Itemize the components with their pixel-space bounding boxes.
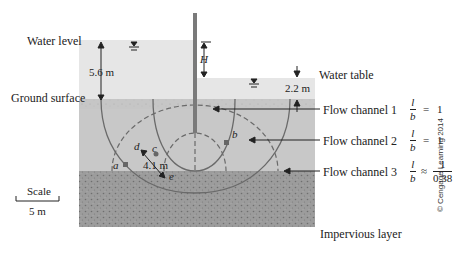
point-b-label: b	[232, 129, 238, 140]
point-a-label: a	[113, 160, 119, 171]
downstream-depth-label: 2.2 m	[285, 83, 310, 94]
point-a-marker	[123, 162, 128, 167]
impervious-layer-label: Impervious layer	[320, 228, 402, 240]
scale-value: 5 m	[29, 206, 46, 217]
head-difference-label: H	[200, 54, 208, 65]
impervious-layer	[79, 171, 315, 227]
point-b-marker	[224, 140, 229, 145]
water-level-label: Water level	[27, 35, 82, 47]
flow-channel-1-ratio: lb	[410, 97, 416, 122]
flow-channel-2-ratio: lb	[410, 128, 416, 153]
upstream-depth-label: 5.6 m	[89, 67, 114, 78]
flow-channel-1-label: Flow channel 1	[323, 104, 397, 116]
water-table-label: Water table	[319, 69, 374, 81]
point-d-label: d	[134, 141, 140, 152]
flow-channel-2-label: Flow channel 2	[323, 135, 397, 147]
flow-channel-3-ratio: lb	[410, 159, 416, 184]
point-e-label: e	[169, 171, 174, 182]
point-c-label: c	[152, 143, 157, 154]
distance-de-label: 4.1 m	[143, 160, 168, 171]
sheet-pile	[193, 13, 197, 133]
flow-channel-1-value: 1	[437, 104, 443, 115]
copyright-credit: © Cengage Learning 2014	[436, 118, 445, 212]
ground-surface-label: Ground surface	[11, 92, 85, 104]
flow-channel-3-label: Flow channel 3	[323, 166, 397, 178]
scale-title: Scale	[27, 186, 51, 197]
